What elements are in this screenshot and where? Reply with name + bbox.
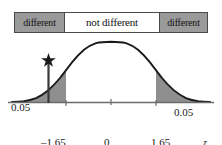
- x-tick-label-negative: –1.65: [41, 137, 66, 145]
- alpha-label-left: 0.05: [11, 102, 30, 113]
- band-cell-reject-right: different: [159, 13, 207, 32]
- decision-band: different not different different: [14, 12, 208, 33]
- x-tick-label-zero: 0: [104, 137, 110, 145]
- normal-curve-svg: [0, 33, 222, 145]
- two-tailed-z-test-figure: different not different different 0.05: [0, 0, 222, 145]
- x-tick-label-positive: 1.65: [151, 137, 170, 145]
- normal-density-curve: [12, 42, 210, 102]
- band-cell-fail-to-reject: not different: [65, 13, 159, 32]
- alpha-label-right: 0.05: [174, 107, 193, 118]
- band-cell-reject-left: different: [15, 13, 65, 32]
- normal-curve-plot: 0.05 0.05 –1.65 0 1.65 z –2.57: [0, 33, 222, 145]
- x-axis-label: z: [203, 138, 207, 145]
